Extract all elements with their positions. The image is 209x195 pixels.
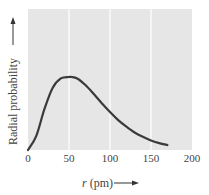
x-tick-label-100: 100	[102, 152, 119, 164]
x-tick-label-150: 150	[143, 152, 160, 164]
x-tick-label-50: 50	[64, 152, 76, 164]
x-tick-label-200: 200	[184, 152, 201, 164]
x-axis-label-group: r (pm)	[82, 176, 139, 190]
x-axis-arrow-icon	[132, 181, 139, 186]
y-axis-label: Radial probability	[6, 58, 20, 145]
x-tick-labels: 050100150200	[25, 152, 201, 164]
radial-probability-chart: 050100150200 Radial probability r (pm)	[0, 0, 209, 195]
x-axis-label: r (pm)	[82, 176, 113, 190]
y-axis-label-group: Radial probability	[6, 17, 20, 145]
x-tick-label-0: 0	[25, 152, 31, 164]
y-axis-arrow-icon	[11, 17, 16, 24]
